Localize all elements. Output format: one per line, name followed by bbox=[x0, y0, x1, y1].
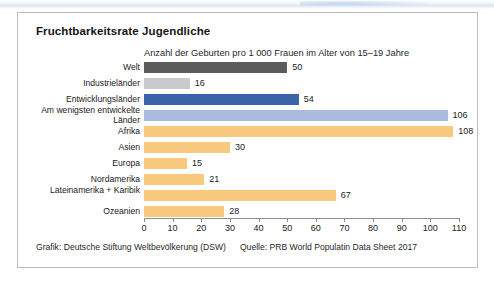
x-axis-tick-label: 10 bbox=[168, 223, 178, 233]
bar-value-label: 28 bbox=[229, 206, 239, 217]
bar[interactable] bbox=[144, 62, 287, 73]
x-axis-tick bbox=[459, 218, 460, 222]
x-axis-tick-label: 60 bbox=[311, 223, 321, 233]
bar[interactable] bbox=[144, 158, 187, 169]
scan-smudge bbox=[300, 0, 440, 6]
x-axis-tick bbox=[259, 218, 260, 222]
category-label: Welt bbox=[20, 63, 140, 73]
bar-row: Entwicklungsländer54 bbox=[18, 94, 479, 105]
chart-footer: Grafik: Deutsche Stiftung Weltbevölkerun… bbox=[36, 242, 417, 252]
bar-row: Welt50 bbox=[18, 62, 479, 73]
scan-artifact-band bbox=[0, 0, 494, 9]
bar-row: Nordamerika21 bbox=[18, 174, 479, 185]
x-axis-tick bbox=[402, 218, 403, 222]
bar[interactable] bbox=[144, 78, 190, 89]
x-axis-tick-label: 70 bbox=[339, 223, 349, 233]
bar-value-label: 50 bbox=[292, 62, 302, 73]
x-axis-line bbox=[144, 218, 459, 219]
category-label: Asien bbox=[20, 143, 140, 153]
category-label: Entwicklungsländer bbox=[20, 95, 140, 105]
bar-value-label: 108 bbox=[458, 126, 473, 137]
x-axis-tick bbox=[373, 218, 374, 222]
x-axis-tick-label: 110 bbox=[452, 223, 466, 233]
x-axis-tick-label: 80 bbox=[368, 223, 378, 233]
chart-card: Fruchtbarkeitsrate Jugendliche Anzahl de… bbox=[17, 12, 478, 268]
x-axis-tick bbox=[173, 218, 174, 222]
x-axis-tick-label: 90 bbox=[397, 223, 407, 233]
bar[interactable] bbox=[144, 94, 299, 105]
bar[interactable] bbox=[144, 126, 453, 137]
bar-value-label: 106 bbox=[453, 110, 468, 121]
footer-credit: Grafik: Deutsche Stiftung Weltbevölkerun… bbox=[36, 242, 226, 252]
x-axis-tick bbox=[316, 218, 317, 222]
bar-row: Lateinamerika + Karibik67 bbox=[18, 190, 479, 201]
footer-source: Quelle: PRB World Populatin Data Sheet 2… bbox=[240, 242, 417, 252]
bar-value-label: 54 bbox=[304, 94, 314, 105]
x-axis-tick bbox=[344, 218, 345, 222]
bar-value-label: 15 bbox=[192, 158, 202, 169]
x-axis-tick-label: 50 bbox=[282, 223, 292, 233]
x-axis-tick-label: 30 bbox=[225, 223, 235, 233]
bar[interactable] bbox=[144, 190, 336, 201]
x-axis-tick bbox=[230, 218, 231, 222]
bar-row: Ozeanien28 bbox=[18, 206, 479, 217]
bar-row: Afrika108 bbox=[18, 126, 479, 137]
bar[interactable] bbox=[144, 142, 230, 153]
bar-value-label: 30 bbox=[235, 142, 245, 153]
x-axis-tick bbox=[430, 218, 431, 222]
category-label: Europa bbox=[20, 159, 140, 169]
bar-row: Am wenigsten entwickelte Länder106 bbox=[18, 110, 479, 121]
bar[interactable] bbox=[144, 174, 204, 185]
x-axis-tick-label: 0 bbox=[141, 223, 146, 233]
bar-row: Europa15 bbox=[18, 158, 479, 169]
bar[interactable] bbox=[144, 206, 224, 217]
x-axis-tick bbox=[287, 218, 288, 222]
category-label: Afrika bbox=[20, 127, 140, 137]
bar-value-label: 16 bbox=[195, 78, 205, 89]
bar-value-label: 21 bbox=[209, 174, 219, 185]
x-axis-tick-label: 20 bbox=[196, 223, 206, 233]
x-axis-tick bbox=[144, 218, 145, 222]
category-label: Lateinamerika + Karibik bbox=[20, 186, 140, 196]
category-label: Am wenigsten entwickelte Länder bbox=[20, 106, 140, 125]
category-label: Ozeanien bbox=[20, 207, 140, 217]
bar-chart-plot: Welt50Industrieländer16Entwicklungslände… bbox=[18, 13, 479, 269]
x-axis-tick-label: 40 bbox=[254, 223, 264, 233]
category-label: Industrieländer bbox=[20, 79, 140, 89]
bar-value-label: 67 bbox=[341, 190, 351, 201]
x-axis-tick-label: 100 bbox=[423, 223, 438, 233]
bar-row: Industrieländer16 bbox=[18, 78, 479, 89]
x-axis-tick bbox=[201, 218, 202, 222]
category-label: Nordamerika bbox=[20, 175, 140, 185]
bar[interactable] bbox=[144, 110, 448, 121]
bar-row: Asien30 bbox=[18, 142, 479, 153]
